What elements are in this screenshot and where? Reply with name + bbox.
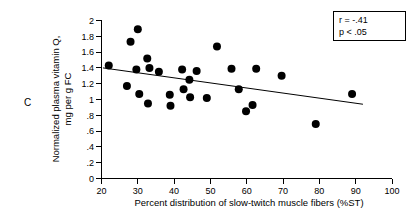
y-tick-label: .8 <box>86 111 94 121</box>
y-tick-label: 1.2 <box>81 79 94 89</box>
stats-legend-box: r = -.41 p < .05 <box>334 12 406 41</box>
data-point <box>155 68 163 76</box>
x-tick-label: 30 <box>133 186 143 196</box>
panel-label: C <box>24 97 31 108</box>
y-tick-label: 1.4 <box>81 63 94 73</box>
x-tick-label: 20 <box>96 186 106 196</box>
y-tick-label: 1.8 <box>81 32 94 42</box>
y-axis-title-line2: mg per g FC <box>62 72 73 125</box>
x-tick-label: 50 <box>205 186 215 196</box>
data-point <box>203 94 211 102</box>
y-tick-label: 0 <box>89 174 94 184</box>
data-point <box>166 102 174 110</box>
data-point <box>235 85 243 93</box>
data-point <box>348 90 356 98</box>
data-point <box>144 99 152 107</box>
data-point <box>278 72 286 80</box>
data-point <box>213 43 221 51</box>
p-value: p < .05 <box>339 27 367 37</box>
x-tick-label: 100 <box>384 186 399 196</box>
data-point <box>145 64 153 72</box>
y-tick-label: .2 <box>86 158 94 168</box>
data-point <box>249 101 257 109</box>
data-point <box>178 65 186 73</box>
x-axis-title: Percent distribution of slow-twitch musc… <box>134 197 363 208</box>
correlation-value: r = -.41 <box>339 15 368 25</box>
x-axis-ticks: 2030405060708090100 <box>96 179 399 197</box>
y-tick-label: 1.6 <box>81 47 94 57</box>
x-tick-label: 80 <box>314 186 324 196</box>
y-tick-label: .4 <box>86 142 94 152</box>
data-point <box>127 38 135 46</box>
y-tick-label: .6 <box>86 126 94 136</box>
data-point <box>227 65 235 73</box>
x-tick-label: 90 <box>351 186 361 196</box>
y-axis-ticks: 0.2.4.6.811.21.41.61.82 <box>81 16 101 184</box>
data-point <box>166 91 174 99</box>
data-point <box>252 65 260 73</box>
data-point <box>143 54 151 62</box>
y-axis-title-line1: Normalized plasma vitamin Q, <box>50 36 61 163</box>
data-point <box>132 65 140 73</box>
data-point <box>185 76 193 84</box>
x-tick-label: 70 <box>278 186 288 196</box>
data-point <box>123 82 131 90</box>
data-point <box>135 90 143 98</box>
data-point <box>186 93 194 101</box>
data-point <box>105 62 113 70</box>
data-point <box>134 25 142 33</box>
x-tick-label: 60 <box>242 186 252 196</box>
regression-trend-line <box>103 68 363 104</box>
y-tick-label: 1 <box>89 95 94 105</box>
y-tick-label: 2 <box>89 16 94 26</box>
data-point <box>312 120 320 128</box>
data-point <box>242 107 250 115</box>
data-points-group <box>105 25 356 128</box>
data-point <box>180 85 188 93</box>
x-tick-label: 40 <box>169 186 179 196</box>
figure-panel-c: C Normalized plasma vitamin Q, mg per g … <box>0 0 419 223</box>
data-point <box>193 67 201 75</box>
scatter-plot: C Normalized plasma vitamin Q, mg per g … <box>0 0 419 223</box>
y-axis-title: Normalized plasma vitamin Q, mg per g FC <box>50 36 73 163</box>
